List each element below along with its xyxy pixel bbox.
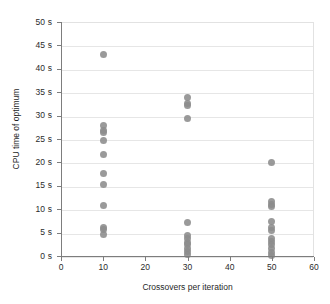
- gridline-horizontal: [61, 140, 313, 141]
- y-tick-label: 30 s: [0, 111, 52, 120]
- y-tick-mark: [57, 139, 61, 140]
- data-point: [100, 51, 107, 58]
- x-tick-mark: [61, 257, 62, 261]
- x-tick-label: 60: [299, 262, 329, 272]
- data-point: [268, 159, 275, 166]
- data-point: [184, 102, 191, 109]
- data-point: [184, 219, 191, 226]
- x-tick-label: 40: [215, 262, 245, 272]
- y-tick-mark: [57, 116, 61, 117]
- y-tick-mark: [57, 233, 61, 234]
- x-tick-mark: [230, 257, 231, 261]
- data-point: [100, 137, 107, 144]
- y-tick-mark: [57, 69, 61, 70]
- x-axis-title: Crossovers per iteration: [61, 282, 314, 292]
- gridline-horizontal: [61, 187, 313, 188]
- x-tick-mark: [314, 257, 315, 261]
- data-point: [100, 202, 107, 209]
- x-tick-mark: [103, 257, 104, 261]
- x-tick-mark: [188, 257, 189, 261]
- y-tick-mark: [57, 22, 61, 23]
- y-tick-label: 5 s: [0, 228, 52, 237]
- x-tick-mark: [145, 257, 146, 261]
- y-tick-mark: [57, 92, 61, 93]
- y-tick-label: 0 s: [0, 252, 52, 261]
- data-point: [100, 129, 107, 136]
- y-tick-label: 20 s: [0, 158, 52, 167]
- data-point: [100, 170, 107, 177]
- data-point: [100, 231, 107, 238]
- gridline-horizontal: [61, 46, 313, 47]
- x-tick-mark: [272, 257, 273, 261]
- data-point: [100, 151, 107, 158]
- y-tick-mark: [57, 186, 61, 187]
- x-tick-label: 50: [257, 262, 287, 272]
- y-tick-label: 15 s: [0, 181, 52, 190]
- x-tick-label: 10: [88, 262, 118, 272]
- x-tick-label: 20: [130, 262, 160, 272]
- x-tick-label: 30: [173, 262, 203, 272]
- y-tick-label: 50 s: [0, 18, 52, 27]
- plot-area: [61, 22, 314, 256]
- y-tick-mark: [57, 209, 61, 210]
- scatter-chart-figure: 0 s5 s10 s15 s20 s25 s30 s35 s40 s45 s50…: [0, 0, 330, 304]
- gridline-horizontal: [61, 163, 313, 164]
- y-tick-label: 35 s: [0, 88, 52, 97]
- y-axis-title: CPU time of optimum: [11, 69, 21, 189]
- gridline-horizontal: [61, 210, 313, 211]
- x-tick-label: 0: [46, 262, 76, 272]
- y-tick-mark: [57, 45, 61, 46]
- y-tick-mark: [57, 162, 61, 163]
- y-tick-label: 40 s: [0, 64, 52, 73]
- y-tick-label: 45 s: [0, 41, 52, 50]
- data-point: [184, 115, 191, 122]
- y-axis-line: [61, 22, 62, 257]
- y-tick-label: 25 s: [0, 135, 52, 144]
- y-tick-label: 10 s: [0, 205, 52, 214]
- gridline-horizontal: [61, 70, 313, 71]
